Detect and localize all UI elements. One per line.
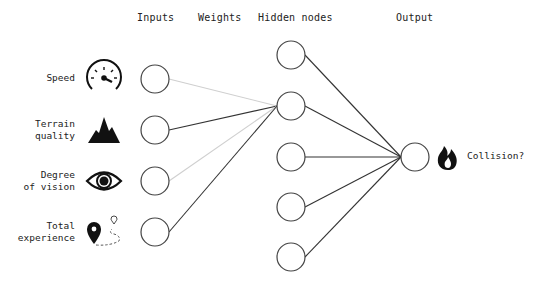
fire-icon — [438, 146, 457, 170]
hidden-node — [277, 41, 305, 69]
speedometer-icon — [87, 60, 121, 89]
output-label: Collision? — [467, 150, 524, 161]
eye-icon — [87, 173, 121, 190]
input-node — [141, 65, 169, 93]
hidden-node — [277, 143, 305, 171]
map-route-icon — [87, 216, 119, 245]
input-node — [141, 218, 169, 246]
hidden-node — [277, 243, 305, 271]
output-node — [401, 143, 429, 171]
input-node — [141, 116, 169, 144]
hidden-node — [277, 193, 305, 221]
hidden-node — [277, 92, 305, 120]
mountain-icon — [88, 117, 120, 143]
network-diagram — [0, 0, 535, 288]
hidden-edges — [305, 55, 401, 257]
input-node — [141, 167, 169, 195]
input-edges — [169, 79, 277, 232]
